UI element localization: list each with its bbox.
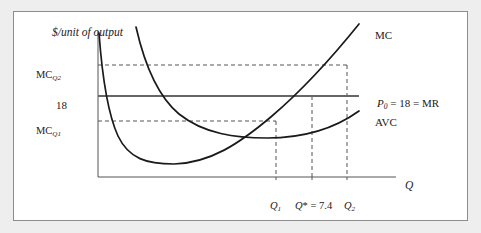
figure-root: $/unit of output MCQ2 18 MCQ1 MC P0 = 18… xyxy=(0,0,481,233)
curve-label-mc: MC xyxy=(375,30,392,41)
y-axis-title: $/unit of output xyxy=(52,27,123,39)
price-label-suffix: = 18 = MR xyxy=(387,97,439,109)
y-tick-label-mcq2: MCQ2 xyxy=(36,70,61,81)
x-tick-qstar-suffix: * = 7.4 xyxy=(303,200,333,211)
cost-curve-plot xyxy=(14,12,468,221)
price-label-p: P xyxy=(377,97,384,109)
y-tick-mcq2-text: MC xyxy=(36,69,52,80)
y-tick-mcq1-text: MC xyxy=(36,125,52,136)
x-tick-label-qstar: Q* = 7.4 xyxy=(295,201,332,212)
x-tick-q2-subscript: 2 xyxy=(352,205,356,213)
curve-label-price-mr: P0 = 18 = MR xyxy=(377,98,439,109)
x-tick-label-q1: Q1 xyxy=(270,201,281,212)
figure-frame: $/unit of output MCQ2 18 MCQ1 MC P0 = 18… xyxy=(13,11,468,221)
y-tick-mcq2-subscript: Q2 xyxy=(52,74,61,82)
curve-label-avc: AVC xyxy=(375,117,397,128)
y-tick-label-18: 18 xyxy=(56,100,67,111)
mc-curve xyxy=(99,24,359,164)
x-tick-q1-text: Q xyxy=(270,200,278,211)
x-tick-q2-text: Q xyxy=(344,200,352,211)
x-tick-label-q2: Q2 xyxy=(344,201,355,212)
y-tick-label-mcq1: MCQ1 xyxy=(36,126,61,137)
x-tick-qstar-text: Q xyxy=(295,200,303,211)
price-label-subscript: 0 xyxy=(384,102,388,111)
x-tick-q1-subscript: 1 xyxy=(278,205,282,213)
x-axis-label: Q xyxy=(405,180,413,192)
y-tick-mcq1-subscript: Q1 xyxy=(52,130,61,138)
